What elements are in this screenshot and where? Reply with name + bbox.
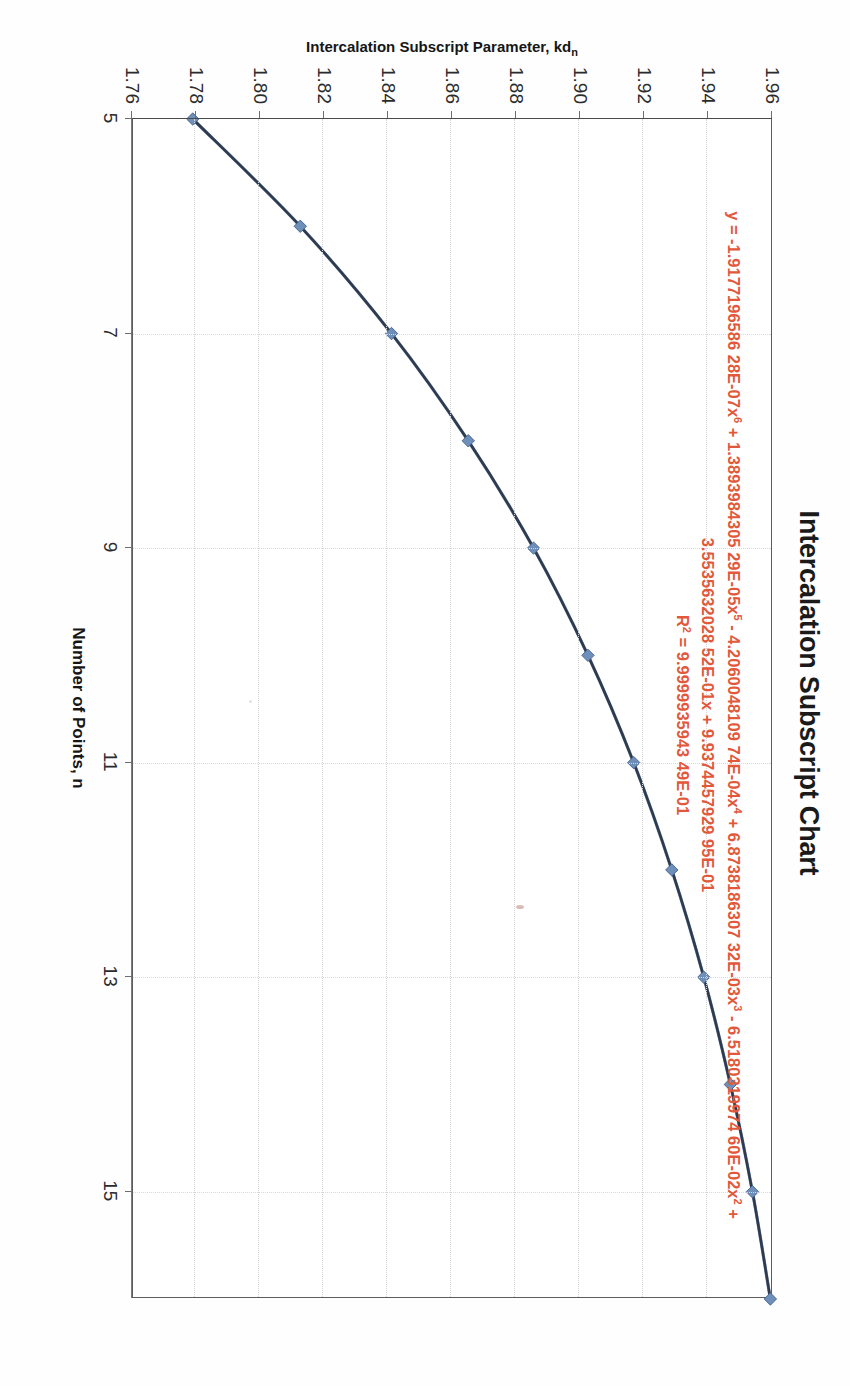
y-axis-tick-label: 1.88 — [505, 67, 527, 104]
scan-speck — [516, 905, 524, 909]
x-axis-tick-label: 13 — [99, 966, 121, 987]
y-axis-tick-label: 1.94 — [697, 67, 719, 104]
y-axis-tick — [131, 111, 132, 118]
gridline-horizontal — [258, 119, 259, 1297]
x-axis-tick-label: 5 — [99, 113, 121, 124]
y-axis-tick — [323, 111, 324, 118]
y-axis-tick — [771, 111, 772, 118]
y-axis-tick-label: 1.82 — [313, 67, 335, 104]
gridline-horizontal — [450, 119, 451, 1297]
y-axis-tick-label: 1.76 — [121, 67, 143, 104]
gridline-horizontal — [514, 119, 515, 1297]
r-squared-label: R2 = 9.9999935943 49E-01 — [670, 185, 696, 1245]
gridline-horizontal — [194, 119, 195, 1297]
trendline-equation: y = -1.9177196586 28E-07x6 + 1.389398430… — [670, 185, 746, 1245]
trendline-equation-line-1: y = -1.9177196586 28E-07x6 + 1.389398430… — [720, 185, 746, 1245]
data-point-marker — [764, 1293, 776, 1305]
gridline-horizontal — [642, 119, 643, 1297]
y-axis-line — [132, 118, 772, 119]
x-axis-tick — [125, 762, 132, 763]
rotated-page: Intercalation Subscript Chart 5791113151… — [0, 0, 850, 1386]
y-axis-tick — [707, 111, 708, 118]
y-axis-tick-label: 1.90 — [569, 67, 591, 104]
x-axis-tick — [125, 118, 132, 119]
y-axis-title: Intercalation Subscript Parameter, kdn — [122, 38, 762, 58]
x-axis-tick — [125, 1191, 132, 1192]
y-axis-tick — [195, 111, 196, 118]
x-axis-tick-label: 9 — [99, 542, 121, 553]
x-axis-line — [131, 118, 132, 1298]
y-axis-tick-label: 1.86 — [441, 67, 463, 104]
data-point-marker — [582, 649, 594, 661]
y-axis-title-main: Intercalation Subscript Parameter, kd — [306, 38, 571, 55]
x-axis-tick — [125, 333, 132, 334]
page-title: Intercalation Subscript Chart — [793, 0, 824, 1386]
gridline-horizontal — [386, 119, 387, 1297]
x-axis-tick — [125, 547, 132, 548]
y-axis-tick-label: 1.84 — [377, 67, 399, 104]
y-axis-tick — [643, 111, 644, 118]
chart-sheet: Intercalation Subscript Chart 5791113151… — [0, 0, 850, 1386]
x-axis-title: Number of Points, n — [68, 118, 88, 1298]
trendline-equation-line-2: 3.5535632028 52E-01x + 9.9374457929 95E-… — [695, 185, 720, 1245]
y-axis-tick-label: 1.92 — [633, 67, 655, 104]
y-axis-title-subscript: n — [571, 46, 578, 58]
y-axis-tick — [387, 111, 388, 118]
y-axis-tick — [259, 111, 260, 118]
gridline-horizontal — [322, 119, 323, 1297]
y-axis-tick — [515, 111, 516, 118]
y-axis-tick — [579, 111, 580, 118]
x-axis-tick — [125, 976, 132, 977]
y-axis-tick-label: 1.96 — [761, 67, 783, 104]
y-axis-tick-label: 1.80 — [249, 67, 271, 104]
scan-speck — [249, 700, 252, 703]
x-axis-tick-label: 11 — [99, 752, 121, 772]
x-axis-tick-label: 15 — [99, 1180, 121, 1201]
gridline-horizontal — [578, 119, 579, 1297]
y-axis-tick — [451, 111, 452, 118]
y-axis-tick-label: 1.78 — [185, 67, 207, 104]
x-axis-tick-label: 7 — [99, 327, 121, 338]
